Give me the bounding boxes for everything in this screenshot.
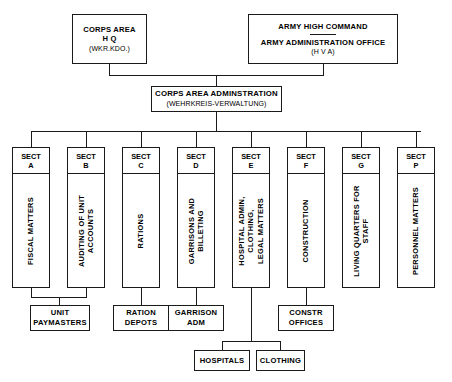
section-e-label: HOSPITAL ADMIN,CLOTHING,LEGAL MATTERS — [237, 196, 265, 265]
section-g-head-line1: SECT — [351, 152, 371, 161]
connector-e-split-bus — [222, 341, 280, 342]
section-b-head-line2: B — [83, 161, 88, 170]
node-army-high-command[interactable]: ARMY HIGH COMMAND ARMY ADMINISTRATION OF… — [248, 14, 398, 64]
section-b-body: AUDITING OF UNITACCOUNTS — [68, 174, 104, 287]
connector-bus-to-sect-d — [196, 131, 197, 147]
section-p-head-line1: SECT — [406, 152, 426, 161]
section-c-label: RATIONS — [136, 213, 145, 248]
section-f-head-line1: SECT — [296, 152, 316, 161]
clothing-label: CLOTHING — [260, 356, 301, 366]
section-b-head-line1: SECT — [76, 152, 96, 161]
garrison-adm-line2: ADM — [187, 318, 205, 328]
section-d-header: SECT D — [178, 148, 214, 174]
org-chart-canvas: CORPS AREA H Q (WKR.KDO.) ARMY HIGH COMM… — [0, 0, 452, 382]
section-d-head-line1: SECT — [186, 152, 206, 161]
connector-bus-to-sect-b — [86, 131, 87, 147]
connector-e-to-clothing — [280, 341, 281, 350]
connector-ab-to-unit-paymasters — [59, 297, 60, 305]
section-e-header: SECT E — [233, 148, 269, 174]
connector-e-to-hospitals — [222, 341, 223, 350]
constr-offices-line2: OFFICES — [289, 318, 323, 328]
section-b-label: AUDITING OF UNITACCOUNTS — [77, 194, 96, 266]
section-g-body: LIVING QUARTERS FORSTAFF — [343, 174, 379, 287]
army-high-command-line1: ARMY HIGH COMMAND — [278, 22, 367, 32]
army-high-command-divider — [310, 34, 336, 35]
connector-hq-down — [109, 64, 110, 75]
section-a-header: SECT A — [13, 148, 49, 174]
section-p-label: PERSONNEL MATTERS — [411, 186, 420, 274]
connector-bus-to-sect-e — [251, 131, 252, 147]
section-p-head-line2: P — [414, 161, 419, 170]
connector-sect-c-to-ration-depots — [141, 288, 142, 305]
connector-center-down — [216, 112, 217, 131]
node-corps-area-administration[interactable]: CORPS AREA ADMINSTRATION (WEHRKREIS-VERW… — [151, 86, 282, 112]
section-d-body: GARRISONS ANDBILLETING — [178, 174, 214, 287]
army-administration-office-line: ARMY ADMINISTRATION OFFICE — [261, 38, 385, 48]
node-garrison-adm[interactable]: GARRISON ADM — [168, 305, 224, 331]
corps-area-administration-title: CORPS AREA ADMINSTRATION — [155, 89, 278, 99]
section-f-label: CONSTRUCTION — [301, 199, 310, 262]
corps-area-hq-abbrev: (WKR.KDO.) — [89, 44, 130, 54]
connector-bus-to-sect-f — [306, 131, 307, 147]
connector-sect-a-down — [31, 288, 32, 297]
section-p-header: SECT P — [398, 148, 434, 174]
node-unit-paymasters[interactable]: UNIT PAYMASTERS — [30, 305, 90, 331]
section-a-body: FISCAL MATTERS — [13, 174, 49, 287]
connector-bus-to-sect-g — [361, 131, 362, 147]
section-c-body: RATIONS — [123, 174, 159, 287]
section-p-body: PERSONNEL MATTERS — [398, 174, 434, 287]
ration-depots-line2: DEPOTS — [125, 318, 157, 328]
node-corps-area-hq[interactable]: CORPS AREA H Q (WKR.KDO.) — [72, 14, 147, 64]
connector-sect-f-to-constr-offices — [306, 288, 307, 305]
ration-depots-line1: RATION — [126, 308, 156, 318]
node-clothing[interactable]: CLOTHING — [256, 350, 305, 371]
connector-ahc-down — [323, 64, 324, 75]
section-e-head-line2: E — [249, 161, 254, 170]
section-c-head-line2: C — [138, 161, 143, 170]
section-e-body: HOSPITAL ADMIN,CLOTHING,LEGAL MATTERS — [233, 174, 269, 287]
connector-sect-e-down — [251, 288, 252, 341]
section-e-head-line1: SECT — [241, 152, 261, 161]
connector-section-bus — [31, 131, 421, 132]
section-c[interactable]: SECT C RATIONS — [122, 147, 160, 288]
hospitals-label: HOSPITALS — [200, 356, 245, 366]
section-d-label: GARRISONS ANDBILLETING — [187, 197, 206, 263]
section-g-head-line2: G — [358, 161, 364, 170]
unit-paymasters-line2: PAYMASTERS — [33, 318, 86, 328]
section-g-label: LIVING QUARTERS FORSTAFF — [352, 185, 371, 277]
army-high-command-abbrev: (H V A) — [311, 47, 334, 57]
section-a-head-line1: SECT — [21, 152, 41, 161]
section-f[interactable]: SECT F CONSTRUCTION — [287, 147, 325, 288]
node-hospitals[interactable]: HOSPITALS — [194, 350, 250, 371]
section-d[interactable]: SECT D GARRISONS ANDBILLETING — [177, 147, 215, 288]
section-a-head-line2: A — [28, 161, 33, 170]
section-f-body: CONSTRUCTION — [288, 174, 324, 287]
section-a[interactable]: SECT A FISCAL MATTERS — [12, 147, 50, 288]
connector-sect-d-to-garrison-adm — [196, 288, 197, 305]
corps-area-hq-line1: CORPS AREA — [83, 25, 135, 35]
section-b-header: SECT B — [68, 148, 104, 174]
section-p[interactable]: SECT P PERSONNEL MATTERS — [397, 147, 435, 288]
connector-bus-to-sect-c — [141, 131, 142, 147]
garrison-adm-line1: GARRISON — [175, 308, 218, 318]
unit-paymasters-line1: UNIT — [51, 308, 70, 318]
node-ration-depots[interactable]: RATION DEPOTS — [113, 305, 169, 331]
connector-bus-to-sect-p — [416, 131, 417, 147]
constr-offices-line1: CONSTR — [289, 308, 322, 318]
section-b[interactable]: SECT B AUDITING OF UNITACCOUNTS — [67, 147, 105, 288]
section-g-header: SECT G — [343, 148, 379, 174]
section-d-head-line2: D — [193, 161, 198, 170]
node-constr-offices[interactable]: CONSTR OFFICES — [278, 305, 334, 331]
section-e[interactable]: SECT E HOSPITAL ADMIN,CLOTHING,LEGAL MAT… — [232, 147, 270, 288]
connector-top-bus-to-center — [216, 75, 217, 86]
section-f-header: SECT F — [288, 148, 324, 174]
section-a-label: FISCAL MATTERS — [26, 197, 35, 265]
section-f-head-line2: F — [304, 161, 309, 170]
section-c-head-line1: SECT — [131, 152, 151, 161]
section-g[interactable]: SECT G LIVING QUARTERS FORSTAFF — [342, 147, 380, 288]
connector-sect-b-down — [86, 288, 87, 297]
connector-bus-to-sect-a — [31, 131, 32, 147]
section-c-header: SECT C — [123, 148, 159, 174]
corps-area-administration-abbrev: (WEHRKREIS-VERWALTUNG) — [166, 99, 266, 109]
corps-area-hq-line2: H Q — [102, 34, 116, 44]
